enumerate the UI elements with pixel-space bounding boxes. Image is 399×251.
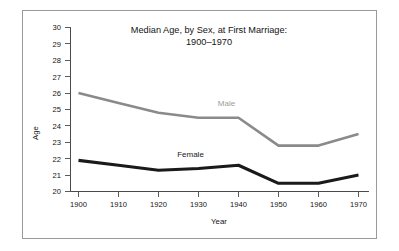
x-tick-label-1910: 1910 [110,200,127,209]
x-tick-label-1950: 1950 [270,200,287,209]
y-tick-label-28: 28 [53,56,61,65]
y-tick-label-23: 23 [53,138,61,147]
y-tick-labels: 30 29 28 27 26 25 24 23 22 21 20 [53,23,61,196]
x-tick-labels: 1900 1910 1920 1930 1940 1950 1960 1970 [70,200,367,209]
y-tick-marks [65,28,71,192]
chart-title-group: Median Age, by Sex, at First Marriage: 1… [131,25,287,47]
y-tick-label-27: 27 [53,73,61,82]
y-tick-label-21: 21 [53,171,61,180]
y-axis: 30 29 28 27 26 25 24 23 22 21 20 Age [31,23,71,196]
y-tick-label-25: 25 [53,105,61,114]
y-tick-label-26: 26 [53,89,61,98]
x-tick-label-1930: 1930 [190,200,207,209]
x-axis: 1900 1910 1920 1930 1940 1950 1960 1970 … [70,192,369,227]
figure-root: Median Age, by Sex, at First Marriage: 1… [0,0,399,251]
x-tick-label-1920: 1920 [150,200,167,209]
y-tick-label-20: 20 [53,187,61,196]
y-axis-title: Age [31,126,40,140]
chart-title: Median Age, by Sex, at First Marriage: [131,25,287,35]
y-tick-label-29: 29 [53,40,61,49]
x-tick-label-1940: 1940 [230,200,247,209]
series-labels: Male Female [177,99,236,159]
x-tick-label-1970: 1970 [350,200,367,209]
x-tick-marks [79,192,359,197]
x-axis-title: Year [211,217,227,226]
y-tick-label-24: 24 [53,122,61,131]
chart-subtitle: 1900–1970 [186,37,232,47]
x-tick-label-1900: 1900 [70,200,87,209]
y-tick-label-30: 30 [53,23,61,32]
series-line-female [79,160,359,183]
y-tick-label-22: 22 [53,155,61,164]
series-label-male: Male [218,99,236,108]
x-tick-label-1960: 1960 [310,200,327,209]
line-chart: Median Age, by Sex, at First Marriage: 1… [0,0,399,251]
series-label-female: Female [177,150,204,159]
